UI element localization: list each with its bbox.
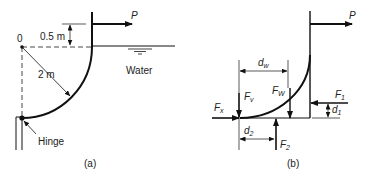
center-label: 0 [17, 33, 23, 44]
depth-label: 0.5 m [40, 31, 65, 42]
hinge-label: Hinge [38, 136, 65, 147]
figure-a: 0 0.5 m 2 m Water Hinge P (a) [16, 10, 175, 169]
force-F2-label: F2 [280, 139, 290, 151]
water-label: Water [126, 65, 153, 76]
dim-dw-label: dw [258, 57, 270, 69]
dim-d2-label: d2 [244, 125, 254, 137]
force-P-label: P [131, 10, 138, 21]
force-Fw-label: FW [272, 85, 286, 97]
diagram-canvas: 0 0.5 m 2 m Water Hinge P (a) P dw FW Fv… [0, 0, 372, 185]
figure-b: P dw FW Fv Fx F1 d1 d2 F2 (b) [212, 10, 356, 169]
dim-d1-label: d1 [332, 104, 342, 116]
hinge-pointer [24, 121, 36, 134]
caption-b: (b) [287, 158, 299, 169]
caption-a: (a) [84, 158, 96, 169]
radius-label: 2 m [38, 69, 55, 80]
force-P-label-b: P [349, 10, 356, 21]
force-F1-label: F1 [335, 89, 345, 101]
force-Fx-label: Fx [214, 102, 224, 114]
support-post [16, 117, 22, 150]
force-Fv-label: Fv [244, 91, 254, 103]
